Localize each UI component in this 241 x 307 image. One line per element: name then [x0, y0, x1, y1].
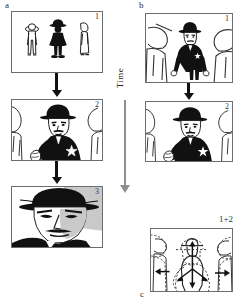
panel-b1-number: 1 — [225, 15, 229, 23]
panel-a3-art — [12, 187, 103, 248]
column-a-label: a — [5, 1, 9, 10]
panel-a1: 1 — [11, 11, 103, 73]
panel-a1-number: 1 — [95, 13, 99, 21]
panel-a2: 2 — [11, 99, 103, 161]
time-axis-arrow-icon — [120, 185, 130, 193]
figure-root: a 1 — [0, 0, 241, 307]
time-axis-line — [124, 100, 126, 188]
panel-a2-number: 2 — [95, 101, 99, 109]
panel-a1-art — [12, 12, 103, 73]
column-b-label: b — [139, 1, 144, 10]
panel-b2-art — [146, 102, 233, 162]
panel-b1: 1 — [145, 13, 233, 83]
panel-b2: 2 — [145, 101, 233, 162]
panel-c — [150, 228, 233, 292]
panel-a2-art — [12, 100, 103, 161]
panel-b2-number: 2 — [225, 103, 229, 111]
panel-c-label: c — [140, 290, 144, 299]
time-axis: Time — [108, 55, 142, 195]
panel-c-art — [151, 229, 233, 292]
time-axis-label: Time — [115, 58, 125, 98]
panel-b1-art — [146, 14, 233, 83]
panel-a3-number: 3 — [95, 188, 99, 196]
panel-c-number: 1+2 — [219, 215, 233, 223]
panel-a3: 3 — [11, 186, 103, 248]
